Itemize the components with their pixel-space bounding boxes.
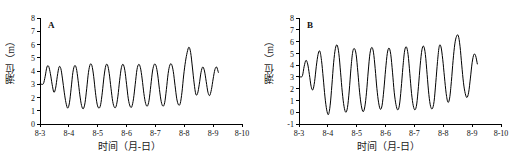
y-tick-label: -1 <box>287 120 294 129</box>
y-tick-label: 2 <box>290 85 294 94</box>
y-tick-label: 4 <box>31 67 35 76</box>
x-tick-label: 8-5 <box>92 129 103 138</box>
data-line-tide-level-A <box>40 47 218 109</box>
x-tick-label: 8-5 <box>351 129 362 138</box>
y-tick-label: 8 <box>31 14 35 23</box>
y-tick-label: 7 <box>290 26 294 35</box>
chart-panel-b: 潮位（m） -10123456788-38-48-58-68-78-88-98-… <box>259 0 518 164</box>
x-axis-label-a: 时间（月-日） <box>0 138 259 153</box>
x-tick-label: 8-8 <box>438 129 449 138</box>
x-tick-label: 8-7 <box>150 129 161 138</box>
y-tick-label: 1 <box>290 97 294 106</box>
panel-tag: B <box>307 20 313 30</box>
x-tick-label: 8-3 <box>294 129 305 138</box>
y-tick-label: 5 <box>290 50 294 59</box>
x-tick-label: 8-9 <box>208 129 219 138</box>
x-tick-label: 8-3 <box>35 129 46 138</box>
x-tick-label: 8-10 <box>235 129 250 138</box>
y-tick-label: 2 <box>31 94 35 103</box>
y-tick-label: 0 <box>31 120 35 129</box>
y-tick-label: 5 <box>31 54 35 63</box>
y-tick-label: 6 <box>290 38 294 47</box>
chart-panel-a: 潮位（m） 0123456788-38-48-58-68-78-88-98-10… <box>0 0 259 164</box>
x-tick-label: 8-9 <box>467 129 478 138</box>
y-tick-label: 3 <box>290 73 294 82</box>
x-tick-label: 8-6 <box>121 129 132 138</box>
x-tick-label: 8-8 <box>179 129 190 138</box>
figure-root: 潮位（m） 0123456788-38-48-58-68-78-88-98-10… <box>0 0 518 164</box>
x-tick-label: 8-7 <box>409 129 420 138</box>
x-tick-label: 8-4 <box>64 129 75 138</box>
y-tick-label: 1 <box>31 107 35 116</box>
y-tick-label: 8 <box>290 14 294 23</box>
y-tick-label: 4 <box>290 61 294 70</box>
x-tick-label: 8-4 <box>323 129 334 138</box>
y-tick-label: 3 <box>31 80 35 89</box>
y-tick-label: 6 <box>31 41 35 50</box>
x-axis-label-b: 时间（月-日） <box>259 138 518 153</box>
y-tick-label: 0 <box>290 108 294 117</box>
panel-tag: A <box>48 20 55 30</box>
data-line-tide-level-B <box>299 35 477 115</box>
x-tick-label: 8-10 <box>494 129 509 138</box>
y-tick-label: 7 <box>31 27 35 36</box>
x-tick-label: 8-6 <box>380 129 391 138</box>
